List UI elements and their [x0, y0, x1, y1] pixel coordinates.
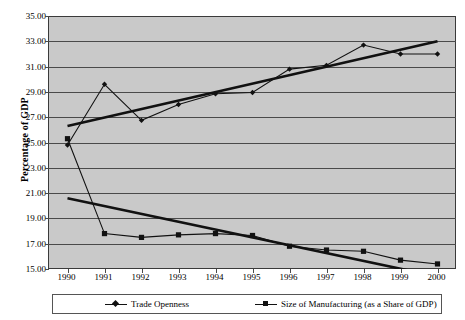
y-tick-label: 17.00 — [8, 239, 46, 249]
x-tick-label: 1995 — [243, 272, 261, 282]
y-tick-label: 19.00 — [8, 213, 46, 223]
chart-legend: Trade OpennessSize of Manufacturing (as … — [52, 294, 442, 314]
data-series-layer — [49, 16, 456, 269]
x-tick-label: 1997 — [317, 272, 335, 282]
x-tick-label: 1990 — [58, 272, 76, 282]
legend-label: Size of Manufacturing (as a Share of GDP… — [281, 299, 437, 309]
legend-label: Trade Openness — [131, 299, 189, 309]
data-point-square — [398, 258, 403, 263]
y-tick-label: 31.00 — [8, 62, 46, 72]
trendline — [68, 41, 438, 126]
data-point-diamond — [361, 42, 366, 47]
plot-area — [48, 16, 456, 269]
x-tick-label: 1992 — [132, 272, 150, 282]
y-tick-label: 29.00 — [8, 87, 46, 97]
x-tick-label: 2000 — [428, 272, 446, 282]
x-tick-label: 1999 — [391, 272, 409, 282]
trendline — [68, 198, 438, 276]
data-point-diamond — [176, 102, 181, 107]
data-point-square — [102, 231, 107, 236]
x-tick-label: 1998 — [354, 272, 372, 282]
y-tick-label: 35.00 — [8, 11, 46, 21]
y-tick-label: 23.00 — [8, 163, 46, 173]
data-point-square — [65, 136, 70, 141]
data-point-diamond — [250, 90, 255, 95]
legend-entry[interactable]: Trade Openness — [105, 299, 189, 309]
y-tick-label: 25.00 — [8, 138, 46, 148]
legend-entry[interactable]: Size of Manufacturing (as a Share of GDP… — [255, 299, 437, 309]
y-axis-tick-labels: 35.0033.0031.0029.0027.0025.0023.0021.00… — [8, 16, 46, 269]
series-trade-openness — [65, 42, 440, 147]
x-tick-label: 1993 — [169, 272, 187, 282]
series-size-of-manufacturing — [65, 136, 440, 266]
x-axis-tick-labels: 1990199119921993199419951996199719981999… — [48, 272, 455, 286]
data-point-diamond — [435, 51, 440, 56]
x-tick-label: 1991 — [95, 272, 113, 282]
data-point-diamond — [287, 66, 292, 71]
y-tick-label: 15.00 — [8, 264, 46, 274]
data-point-square — [361, 249, 366, 254]
x-tick-label: 1996 — [280, 272, 298, 282]
legend-marker-diamond-icon — [105, 300, 127, 309]
x-tick-label: 1994 — [206, 272, 224, 282]
data-point-square — [213, 231, 218, 236]
data-point-square — [139, 235, 144, 240]
legend-marker-square-icon — [255, 300, 277, 309]
data-point-square — [176, 232, 181, 237]
y-tick-mark — [45, 269, 49, 270]
data-point-diamond — [398, 51, 403, 56]
series-line — [68, 139, 438, 264]
data-point-square — [435, 261, 440, 266]
y-tick-label: 33.00 — [8, 36, 46, 46]
y-tick-label: 27.00 — [8, 112, 46, 122]
y-tick-label: 21.00 — [8, 188, 46, 198]
chart-container: Percentage of GDP 35.0033.0031.0029.0027… — [0, 0, 465, 320]
